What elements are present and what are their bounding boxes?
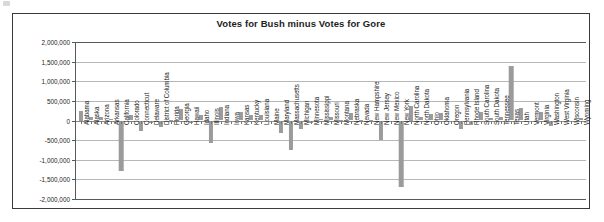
x-tick-mark (271, 121, 272, 124)
x-tick-mark (411, 121, 412, 124)
x-tick-mark (251, 121, 252, 124)
x-tick-label: Oklahoma (443, 97, 450, 125)
x-tick-mark (571, 121, 572, 124)
y-tick-label: -500,000 (45, 137, 70, 144)
bar (119, 121, 124, 172)
x-tick-mark (311, 121, 312, 124)
plot-area: 2,000,0001,500,0001,000,000500,0000-500,… (75, 42, 586, 199)
x-tick-mark (451, 121, 452, 124)
x-tick-mark (231, 121, 232, 124)
x-tick-mark (371, 121, 372, 124)
x-tick-label: Alabama (83, 100, 90, 124)
x-tick-label: South Carolina (483, 84, 490, 124)
x-tick-mark (511, 121, 512, 124)
x-tick-label: Massachusetts (293, 84, 300, 125)
y-tick-label: 0 (66, 117, 70, 124)
x-tick-label: Oregon (453, 104, 460, 124)
x-tick-mark (281, 121, 282, 124)
x-tick-label: Delaware (153, 99, 160, 125)
x-tick-label: New Jersey (383, 93, 390, 125)
x-tick-label: Indiana (223, 105, 230, 125)
x-tick-label: Connecticut (143, 92, 150, 124)
x-tick-label: Nebraska (353, 98, 360, 124)
x-tick-mark (541, 121, 542, 124)
scan-artifact (3, 1, 10, 6)
x-tick-mark (261, 121, 262, 124)
x-tick-mark (501, 121, 502, 124)
x-tick-mark (491, 121, 492, 124)
x-tick-mark (321, 121, 322, 124)
x-tick-mark (561, 121, 562, 124)
x-tick-label: Rhode Island (473, 89, 480, 125)
x-tick-label: Arizona (103, 104, 110, 125)
x-tick-mark (91, 121, 92, 124)
chart-title: Votes for Bush minus Votes for Gore (13, 18, 589, 29)
y-tick-mark (72, 199, 76, 200)
x-tick-mark (421, 121, 422, 124)
x-tick-mark (521, 121, 522, 124)
y-tick-label: 2,000,000 (42, 39, 70, 46)
x-tick-label: Louisiana (263, 98, 270, 124)
x-tick-label: Utah (523, 112, 530, 125)
x-tick-label: Idaho (203, 109, 210, 124)
x-tick-mark (101, 121, 102, 124)
x-tick-mark (391, 121, 392, 124)
x-tick-mark (401, 121, 402, 124)
x-tick-mark (531, 121, 532, 124)
x-tick-label: Texas (513, 109, 520, 125)
x-tick-label: Minnesota (313, 96, 320, 124)
y-tick-label: 1,000,000 (42, 78, 70, 85)
x-tick-mark (171, 121, 172, 124)
x-tick-mark (351, 121, 352, 124)
chart-frame: Votes for Bush minus Votes for Gore 2,00… (12, 13, 590, 209)
x-tick-mark (141, 121, 142, 124)
x-tick-label: Florida (173, 106, 180, 125)
x-tick-label: North Carolina (413, 85, 420, 124)
x-tick-mark (381, 121, 382, 124)
x-tick-mark (221, 121, 222, 124)
x-tick-mark (191, 121, 192, 124)
x-tick-label: Iowa (233, 112, 240, 125)
x-tick-label: Mississippi (323, 95, 330, 124)
x-tick-label: New Mexico (393, 91, 400, 124)
x-tick-mark (581, 121, 582, 124)
x-tick-mark (341, 121, 342, 124)
y-tick-label: 500,000 (47, 97, 70, 104)
x-tick-label: Wyoming (583, 99, 590, 125)
x-tick-mark (151, 121, 152, 124)
bar (399, 121, 404, 188)
x-tick-mark (241, 121, 242, 124)
x-tick-label: Maryland (283, 99, 290, 124)
x-tick-label: Hawaii (193, 106, 200, 124)
x-tick-mark (301, 121, 302, 124)
x-tick-mark (161, 121, 162, 124)
y-tick-label: -1,000,000 (39, 156, 70, 163)
x-tick-mark (481, 121, 482, 124)
x-tick-mark (331, 121, 332, 124)
x-tick-label: Colorado (133, 100, 140, 125)
x-tick-label: Michigan (303, 100, 310, 124)
x-tick-label: Montana (343, 101, 350, 125)
x-tick-mark (461, 121, 462, 124)
x-tick-label: Kansas (243, 104, 250, 124)
gridline (76, 199, 586, 200)
x-tick-mark (131, 121, 132, 124)
x-tick-mark (551, 121, 552, 124)
x-tick-label: California (123, 99, 130, 125)
x-tick-label: North Dakota (423, 89, 430, 125)
x-tick-label: Georgia (183, 103, 190, 125)
x-tick-label: Maine (273, 108, 280, 125)
x-tick-label: Tennessee (503, 95, 510, 125)
x-tick-mark (111, 121, 112, 124)
x-tick-label: Vermont (533, 102, 540, 125)
x-tick-label: Wisconsin (573, 97, 580, 125)
x-tick-label: Nevada (363, 103, 370, 124)
x-tick-mark (121, 121, 122, 124)
x-tick-mark (181, 121, 182, 124)
x-tick-mark (211, 121, 212, 124)
x-tick-label: District of Columbia (163, 72, 170, 125)
y-tick-label: -1,500,000 (39, 176, 70, 183)
x-tick-label: Arkansas (113, 99, 120, 124)
x-tick-label: Alaska (93, 106, 100, 124)
x-tick-mark (431, 121, 432, 124)
